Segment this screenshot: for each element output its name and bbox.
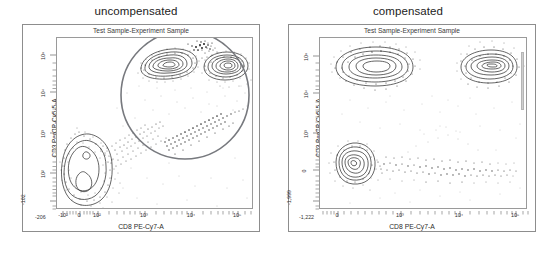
- x-axis-title-compensated: CD8 PE-Cy7-A: [289, 223, 535, 230]
- x-tick-label: 10⁵: [233, 212, 241, 218]
- x-axis-title-uncompensated: CD8 PE-Cy7-A: [23, 223, 259, 230]
- plot-title-uncompensated: Test Sample-Experiment Sample: [23, 27, 259, 34]
- plot-title-compensated: Test Sample-Experiment Sample: [289, 27, 535, 34]
- panel-header-uncompensated: uncompensated: [0, 5, 272, 17]
- x-axis-corner-value-uncompensated: -206: [35, 214, 46, 220]
- population-double-negative-comp: [329, 141, 383, 191]
- scatter-plot-uncompensated: [57, 38, 253, 209]
- x-tick-label: 10³: [396, 212, 404, 218]
- plot-frame-uncompensated: Test Sample-Experiment Sample CD3 PerCP-…: [22, 24, 260, 232]
- scatter-noise: [117, 86, 248, 207]
- x-tick-label: 10⁴: [187, 212, 195, 218]
- scatter-plot-compensated: [320, 38, 527, 209]
- population-cd3-positive-cd8-negative: [138, 43, 218, 83]
- flow-cytometry-comparison: uncompensated Test Sample-Experiment Sam…: [0, 0, 544, 255]
- x-axis-corner-value-compensated: -1,222: [299, 214, 314, 220]
- scatter-noise-comp: [342, 96, 521, 204]
- x-tick-label: 10³: [140, 212, 148, 218]
- panel-header-compensated: compensated: [272, 5, 544, 17]
- y-axis-corner-value-compensated: -1,999: [286, 190, 292, 205]
- gate-circle-annotation[interactable]: [121, 38, 249, 159]
- scatter-canvas-uncompensated[interactable]: [56, 37, 253, 209]
- population-cd3-positive-cd8-positive-comp: [457, 41, 525, 89]
- panel-uncompensated: uncompensated Test Sample-Experiment Sam…: [0, 0, 272, 255]
- panel-compensated: compensated Test Sample-Experiment Sampl…: [272, 0, 544, 255]
- x-tick-label: 10²: [93, 212, 101, 218]
- population-cd3-positive-cd8-negative-comp: [331, 42, 421, 91]
- plot-frame-compensated: Test Sample-Experiment Sample CD3 PerCP-…: [288, 24, 536, 232]
- y-tick-label: 10²: [40, 170, 46, 178]
- plot-edge-marker: [521, 52, 524, 110]
- x-tick-label: 10⁵: [511, 212, 519, 218]
- y-tick-label: 0: [301, 170, 307, 173]
- y-axis-corner-value-uncompensated: -102: [20, 194, 26, 205]
- x-tick-label: 10⁴: [455, 212, 463, 218]
- population-double-negative: [60, 128, 121, 209]
- population-top-dense-blob: [187, 40, 212, 50]
- y-tick-label: 10⁴: [40, 89, 46, 97]
- y-tick-label: 10⁵: [303, 53, 309, 61]
- x-tick-label: 0: [336, 212, 339, 218]
- x-tick-label: 0: [78, 212, 81, 218]
- y-tick-label: 10³: [303, 130, 309, 138]
- x-tick-label: -10²: [58, 212, 68, 218]
- panel-container: uncompensated Test Sample-Experiment Sam…: [0, 0, 544, 255]
- scatter-canvas-compensated[interactable]: [319, 37, 527, 209]
- y-tick-label: 10⁴: [303, 90, 309, 98]
- y-tick-label: 10⁵: [40, 52, 46, 60]
- y-tick-label: 10³: [40, 130, 46, 138]
- population-horizontal-smear: [377, 127, 516, 184]
